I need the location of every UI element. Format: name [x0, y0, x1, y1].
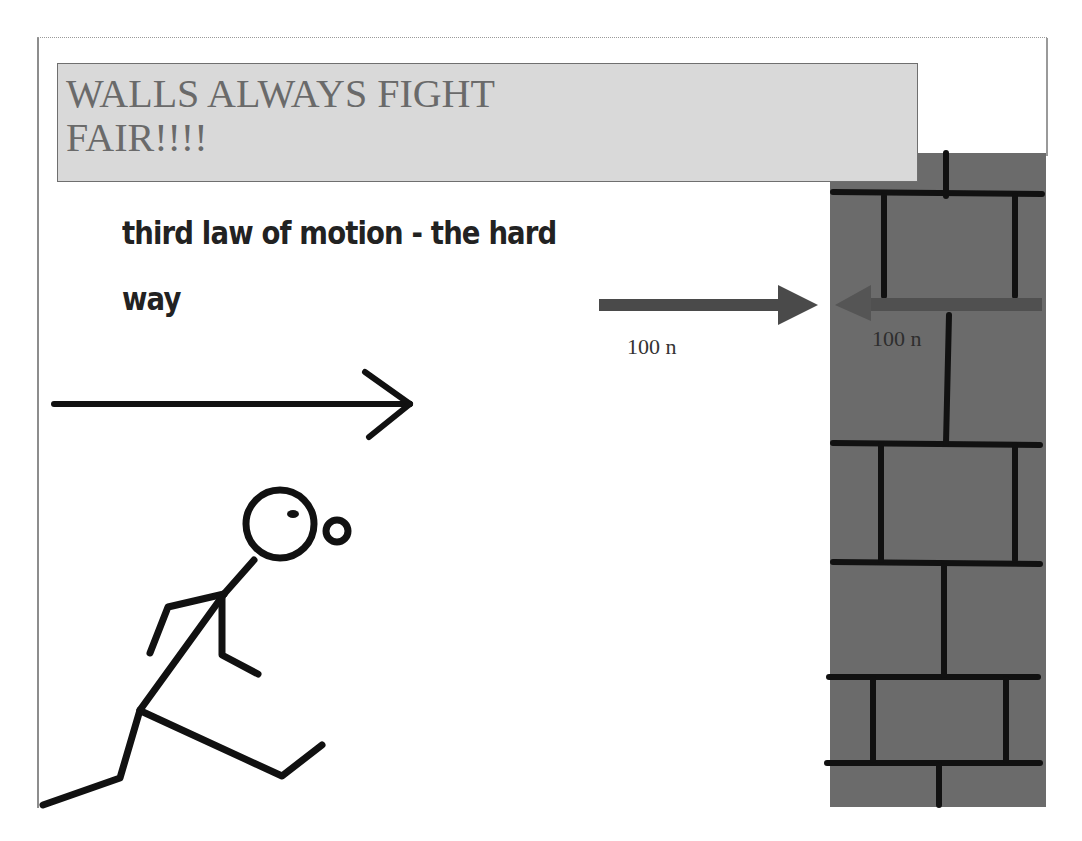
running-stick-figure-icon: [0, 0, 1082, 841]
